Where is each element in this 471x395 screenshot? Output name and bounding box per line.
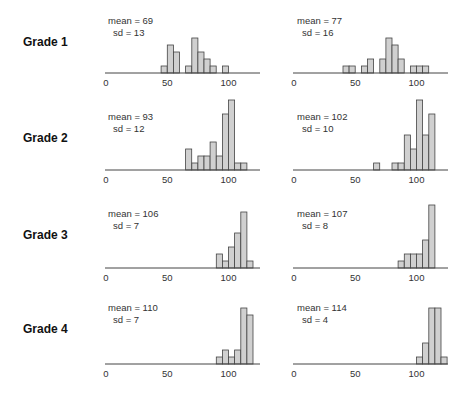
x-tick-label: 50 — [350, 77, 361, 88]
x-tick-label: 100 — [221, 77, 237, 88]
histogram-bar — [423, 135, 429, 170]
x-tick-label: 100 — [409, 77, 425, 88]
x-tick-label: 0 — [291, 174, 296, 185]
histogram-bar — [247, 315, 253, 364]
histogram-bar — [392, 45, 398, 73]
x-tick-label: 100 — [221, 174, 237, 185]
histogram-bar — [423, 343, 429, 364]
histogram-bar — [380, 59, 386, 73]
histogram-bar — [417, 100, 423, 170]
histogram-panel: 050100 — [103, 212, 260, 283]
histogram-bar — [198, 52, 204, 73]
histogram-grid: 0501000501000501000501000501000501000501… — [0, 0, 471, 395]
histogram-bar — [241, 212, 247, 268]
histogram-bar — [429, 205, 435, 268]
histogram-bar — [222, 350, 228, 364]
histogram-bar — [441, 357, 447, 364]
histogram-bar — [410, 254, 416, 268]
histogram-bar — [192, 38, 198, 73]
histogram-bar — [210, 142, 216, 170]
histogram-bar — [235, 163, 241, 170]
histogram-bar — [398, 163, 404, 170]
histogram-bar — [386, 38, 392, 73]
histogram-bar — [241, 308, 247, 364]
histogram-bar — [216, 357, 222, 364]
histogram-bar — [204, 59, 210, 73]
histogram-panel: 050100 — [291, 38, 448, 88]
histogram-bar — [410, 66, 416, 73]
histogram-bar — [417, 66, 423, 73]
histogram-panel: 050100 — [291, 308, 448, 379]
x-tick-label: 0 — [103, 368, 108, 379]
x-tick-label: 100 — [221, 272, 237, 283]
histogram-bar — [222, 66, 228, 73]
x-tick-label: 0 — [103, 77, 108, 88]
histogram-bar — [229, 247, 235, 268]
histogram-panel: 050100 — [103, 308, 260, 379]
histogram-bar — [222, 114, 228, 170]
x-tick-label: 50 — [350, 272, 361, 283]
histogram-bar — [241, 163, 247, 170]
histogram-bar — [410, 149, 416, 170]
histogram-bar — [161, 66, 167, 73]
histogram-bar — [361, 66, 367, 73]
histogram-panel: 050100 — [103, 38, 260, 88]
histogram-bar — [404, 254, 410, 268]
histogram-bar — [343, 66, 349, 73]
x-tick-label: 50 — [162, 368, 173, 379]
histogram-bar — [417, 357, 423, 364]
histogram-bar — [417, 254, 423, 268]
histogram-bar — [204, 156, 210, 170]
histogram-bar — [349, 66, 355, 73]
x-tick-label: 50 — [350, 174, 361, 185]
x-tick-label: 0 — [103, 272, 108, 283]
histogram-bar — [216, 254, 222, 268]
histogram-bar — [186, 66, 192, 73]
histogram-bar — [167, 45, 173, 73]
histogram-bar — [235, 350, 241, 364]
x-tick-label: 100 — [409, 174, 425, 185]
histogram-bar — [404, 135, 410, 170]
histogram-bar — [247, 261, 253, 268]
histogram-bar — [210, 66, 216, 73]
histogram-bar — [229, 357, 235, 364]
x-tick-label: 50 — [350, 368, 361, 379]
histogram-bar — [368, 59, 374, 73]
histogram-bar — [235, 233, 241, 268]
histogram-bar — [429, 308, 435, 364]
histogram-bar — [229, 100, 235, 170]
histogram-bar — [423, 240, 429, 268]
histogram-bar — [222, 261, 228, 268]
x-tick-label: 50 — [162, 77, 173, 88]
histogram-bar — [398, 261, 404, 268]
x-tick-label: 100 — [409, 272, 425, 283]
x-tick-label: 100 — [221, 368, 237, 379]
histogram-bar — [216, 156, 222, 170]
histogram-bar — [198, 156, 204, 170]
x-tick-label: 100 — [409, 368, 425, 379]
x-tick-label: 0 — [103, 174, 108, 185]
histogram-bar — [398, 59, 404, 73]
histogram-bar — [392, 163, 398, 170]
x-tick-label: 0 — [291, 77, 296, 88]
histogram-bar — [429, 114, 435, 170]
histogram-panel: 050100 — [291, 205, 448, 283]
x-tick-label: 50 — [162, 272, 173, 283]
histogram-bar — [423, 66, 429, 73]
x-tick-label: 0 — [291, 368, 296, 379]
histogram-bar — [374, 163, 380, 170]
histogram-bar — [186, 149, 192, 170]
histogram-bar — [435, 308, 441, 364]
histogram-panel: 050100 — [103, 100, 260, 185]
x-tick-label: 50 — [162, 174, 173, 185]
histogram-bar — [173, 52, 179, 73]
histogram-bar — [192, 163, 198, 170]
histogram-panel: 050100 — [291, 100, 448, 185]
x-tick-label: 0 — [291, 272, 296, 283]
